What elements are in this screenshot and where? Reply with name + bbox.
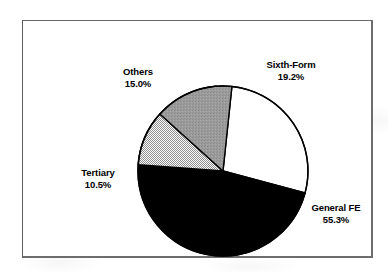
- pie-label-general-fe: General FE 55.3%: [295, 202, 377, 226]
- pie-label-tertiary-value: 10.5%: [67, 179, 129, 191]
- pie-label-sixth-form-value: 19.2%: [255, 71, 327, 83]
- figure-frame: Sixth-Form 19.2% Others 15.0% Tertiary 1…: [22, 20, 373, 258]
- pie-label-general-fe-name: General FE: [295, 202, 377, 214]
- pie-label-general-fe-value: 55.3%: [295, 214, 377, 226]
- pie-label-sixth-form: Sixth-Form 19.2%: [255, 59, 327, 83]
- pie-svg: [135, 83, 311, 259]
- pie-label-others-value: 15.0%: [108, 78, 168, 90]
- pie-chart-figure: Sixth-Form 19.2% Others 15.0% Tertiary 1…: [0, 0, 388, 272]
- pie-label-sixth-form-name: Sixth-Form: [255, 59, 327, 71]
- pie-label-tertiary: Tertiary 10.5%: [67, 167, 129, 191]
- pie-label-tertiary-name: Tertiary: [67, 167, 129, 179]
- pie-label-others-name: Others: [108, 66, 168, 78]
- pie-chart-plot-area: [135, 83, 311, 259]
- pie-label-others: Others 15.0%: [108, 66, 168, 90]
